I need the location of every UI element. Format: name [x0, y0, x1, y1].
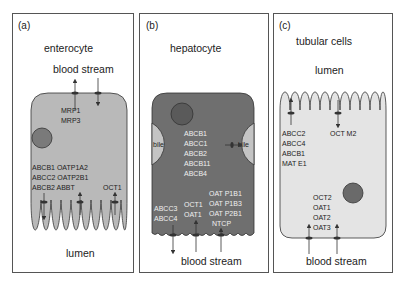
bile-right-label: bile — [238, 141, 249, 148]
label-oatp1b3-b: OAT P1B3 — [209, 200, 242, 207]
panel-c-title: tubular cells — [296, 35, 352, 47]
label-abcb1-b: ABCB1 — [184, 130, 207, 137]
transporter-icon — [230, 142, 233, 148]
label-abcc4-c: ABCC4 — [282, 140, 305, 147]
panel-a-bottom-label: lumen — [66, 247, 95, 259]
label-oct2-c: OCT2 — [313, 194, 332, 201]
nucleus-c — [343, 183, 363, 203]
panel-c-top-label: lumen — [315, 64, 344, 76]
label-abcc1-b: ABCC1 — [184, 140, 207, 147]
label-abcc2-c: ABCC2 — [282, 130, 305, 137]
nucleus-b — [171, 103, 193, 125]
panel-b-bottom-label: blood stream — [181, 255, 242, 267]
label-apical-3: ABCB2 ABBT — [32, 184, 76, 191]
panel-a-label: (a) — [18, 20, 30, 31]
label-abcb11-b: ABCB11 — [184, 160, 210, 167]
panel-c: (c) tubular cells lumen ABCC2 ABCC4 ABCB… — [274, 14, 393, 273]
label-mrp3: MRP3 — [61, 117, 81, 124]
panel-b-title: hepatocyte — [170, 42, 222, 54]
transporter-icon — [306, 236, 313, 239]
label-octm2-c: OCT M2 — [330, 130, 356, 137]
panel-a-title: enterocyte — [44, 42, 93, 54]
label-abcb1-c: ABCB1 — [282, 150, 305, 157]
label-apical-2: ABCC2 OATP2B1 — [32, 174, 88, 181]
nucleus-a — [32, 128, 52, 148]
transporter-icon — [112, 200, 119, 203]
transporter-icon — [170, 233, 177, 236]
label-oat3-c: OAT3 — [313, 224, 331, 231]
label-oat1-c: OAT1 — [313, 204, 331, 211]
transporter-icon — [72, 91, 79, 94]
label-mate1-c: MAT E1 — [282, 160, 307, 167]
transporter-icon — [335, 111, 342, 114]
label-ntcp-b: NTCP — [212, 220, 231, 227]
panel-c-label: (c) — [279, 20, 291, 31]
label-abcc4-b: ABCC4 — [154, 215, 177, 222]
transporter-icon — [193, 233, 200, 236]
label-oat2-c: OAT2 — [313, 214, 331, 221]
label-apical-1: ABCB1 OATP1A2 — [32, 164, 88, 171]
label-oat1-b: OAT1 — [184, 211, 202, 218]
label-oct1-a: OCT1 — [103, 184, 122, 191]
transporter-icon — [334, 236, 341, 239]
transporter-icon — [288, 111, 295, 114]
label-abcb4-b: ABCB4 — [184, 170, 207, 177]
transporter-icon — [77, 200, 84, 203]
label-abcc3-b: ABCC3 — [154, 205, 177, 212]
panel-b-label: (b) — [146, 20, 158, 31]
transporter-icon — [218, 233, 225, 236]
label-oatp2b1-b: OAT P2B1 — [209, 210, 242, 217]
panel-a-top-label: blood stream — [53, 63, 114, 75]
bile-left-label: bile — [153, 141, 164, 148]
panel-a: (a) enterocyte blood stream MRP1 MRP3 AB… — [13, 14, 134, 273]
transporter-icon — [41, 200, 48, 203]
label-mrp1: MRP1 — [61, 107, 81, 114]
panel-c-bottom-label: blood stream — [306, 255, 367, 267]
panel-b: (b) hepatocyte bile bile ABCB1 ABCC1 ABC… — [140, 14, 269, 273]
transporter-icon — [95, 91, 102, 94]
label-oct1-b: OCT1 — [184, 201, 203, 208]
transporter-figure: (a) enterocyte blood stream MRP1 MRP3 AB… — [0, 0, 402, 283]
label-abcb2-b: ABCB2 — [184, 150, 207, 157]
label-oatp1b1-b: OAT P1B1 — [209, 190, 242, 197]
